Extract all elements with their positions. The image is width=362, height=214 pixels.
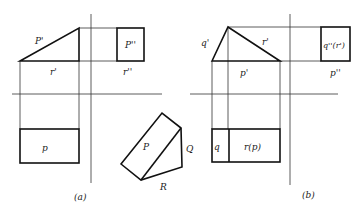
label-wedge-Q: Q <box>186 144 194 154</box>
label-q-side: q''(r') <box>323 41 345 50</box>
wedge-edge <box>141 128 181 180</box>
label-r-front: r' <box>50 67 57 77</box>
front-view-triangle-b <box>212 27 280 61</box>
orthographic-projection-diagram: P' r' P'' r'' p (a) P Q R q' r' p' q''(r… <box>0 0 362 214</box>
wedge-isometric: P Q R <box>121 113 194 192</box>
label-p-top: p <box>42 143 48 153</box>
caption-a: (a) <box>74 192 87 202</box>
front-view-triangle-a <box>20 28 79 61</box>
top-view-rect-a <box>20 129 79 163</box>
figure-b: q' r' p' q''(r') p'' q r(p) (b) <box>190 14 350 200</box>
diagram-canvas: P' r' P'' r'' p (a) P Q R q' r' p' q''(r… <box>0 0 362 214</box>
label-p-side-b: p'' <box>330 68 341 78</box>
label-r-top: r(p) <box>244 142 262 152</box>
label-wedge-P: P <box>142 142 150 152</box>
label-p-front-b: p' <box>240 68 248 78</box>
label-wedge-R: R <box>159 182 167 192</box>
label-r-side: r'' <box>123 67 132 77</box>
label-p-side: P'' <box>124 40 136 50</box>
wedge-outline <box>121 113 182 180</box>
label-q-top: q <box>214 142 220 152</box>
label-q-front: q' <box>201 38 209 48</box>
caption-b: (b) <box>302 190 315 200</box>
figure-a: P' r' P'' r'' p (a) <box>12 14 162 202</box>
label-r-front-b: r' <box>262 37 269 47</box>
label-p-front: P' <box>34 36 44 46</box>
